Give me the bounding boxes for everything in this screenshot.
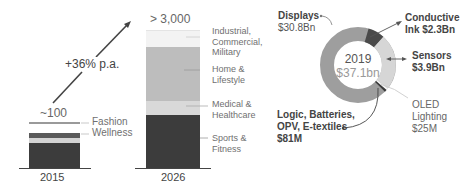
bar-2015-sports xyxy=(29,143,80,168)
total-2026: > 3,000 xyxy=(150,12,190,26)
bar-2026-industrial xyxy=(146,30,200,47)
label-conductive-ink: Conductive Ink $2.3Bn xyxy=(405,12,459,36)
bar-2026-sports xyxy=(146,115,200,168)
label-medical: Medical & Healthcare xyxy=(212,99,256,120)
bar-2015-medical xyxy=(29,138,80,143)
leader-displays xyxy=(322,16,332,25)
bar-2026 xyxy=(146,30,200,168)
label-home-lifestyle: Home & Lifestyle xyxy=(212,64,245,85)
label-displays: Displays $30.8Bn xyxy=(278,10,319,34)
bar-2026-home xyxy=(146,47,200,101)
label-industrial: Industrial, Commercial, Military xyxy=(212,26,263,58)
x-label-2015: 2015 xyxy=(40,171,64,183)
growth-label: +36% p.a. xyxy=(64,57,120,71)
label-wellness: Wellness xyxy=(92,128,132,139)
label-sensors: Sensors $3.9Bn xyxy=(412,50,451,74)
bar-2015-wellness xyxy=(29,133,80,138)
label-sports: Sports & Fitness xyxy=(212,133,247,154)
label-oled-lighting: OLED Lighting $25M xyxy=(412,99,447,135)
bar-2026-medical xyxy=(146,101,200,115)
bar-2015 xyxy=(29,122,80,168)
donut-total: $37.1bn xyxy=(328,66,388,80)
x-label-2026: 2026 xyxy=(161,171,185,183)
donut-year: 2019 xyxy=(336,52,380,66)
total-2015: ~100 xyxy=(40,106,67,120)
bar-2015-fashion xyxy=(29,122,80,124)
leader-ink xyxy=(370,22,400,37)
label-fashion: Fashion xyxy=(92,117,128,128)
label-logic-batteries: Logic, Batteries, OPV, E-textiles $81M xyxy=(277,109,355,145)
